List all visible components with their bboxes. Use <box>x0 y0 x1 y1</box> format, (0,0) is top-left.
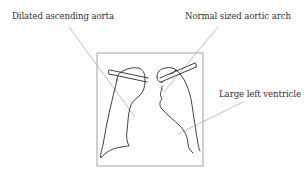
leader-line-left-ventricle <box>178 102 243 134</box>
left-heart-border-outline <box>157 68 200 153</box>
chest-diagram <box>0 0 305 172</box>
leader-line-aortic-arch <box>163 27 218 93</box>
leader-line-ascending-aorta <box>69 27 135 117</box>
right-heart-border-outline <box>101 68 145 158</box>
left-clavicle <box>108 70 148 82</box>
aortic-knob <box>161 86 163 89</box>
